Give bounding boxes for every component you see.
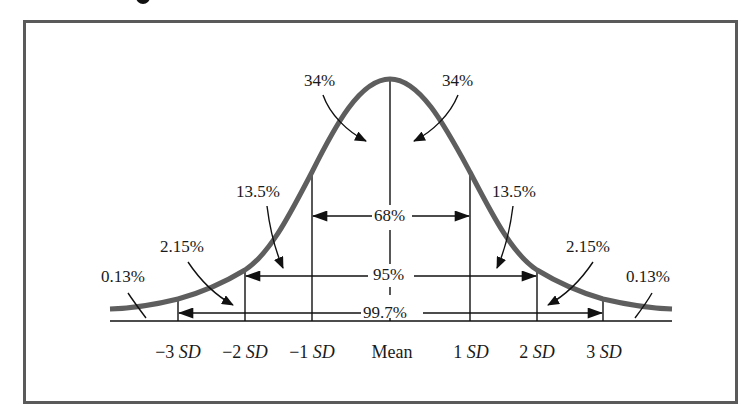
axis-label-minus2sd: −2 SD <box>222 342 268 363</box>
axis-label-plus3sd: 3 SD <box>586 342 622 363</box>
label-13-5-left: 13.5% <box>236 183 280 200</box>
pointer-2-15-right <box>548 262 593 305</box>
label-34-right: 34% <box>442 72 473 89</box>
axis-label-minus3sd: −3 SD <box>155 342 201 363</box>
pointer-2-15-left <box>188 262 233 305</box>
label-2-15-left: 2.15% <box>160 238 204 255</box>
label-99-7: 99.7% <box>363 304 407 321</box>
label-34-left: 34% <box>304 72 335 89</box>
label-68: 68% <box>374 207 405 224</box>
axis-label-mean: Mean <box>372 342 413 363</box>
axis-label-minus1sd: −1 SD <box>289 342 335 363</box>
axis-label-plus2sd: 2 SD <box>519 342 555 363</box>
label-2-15-right: 2.15% <box>566 238 610 255</box>
label-0-13-right: 0.13% <box>626 268 670 285</box>
axis-label-plus1sd: 1 SD <box>453 342 489 363</box>
label-0-13-left: 0.13% <box>101 268 145 285</box>
label-95: 95% <box>373 266 404 283</box>
label-13-5-right: 13.5% <box>492 183 536 200</box>
